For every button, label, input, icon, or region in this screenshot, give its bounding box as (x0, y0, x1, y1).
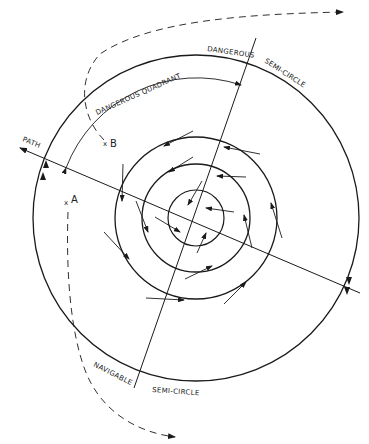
ship-track-a (68, 212, 175, 437)
label-navigable: NAVIGABLE (92, 361, 133, 387)
isobar-inner (168, 190, 224, 246)
storm-diagram: DANGEROUS SEMI-CIRCLE DANGEROUS QUADRANT… (0, 0, 369, 444)
outer-circle-arrow-left-2 (40, 172, 46, 180)
outer-storm-circle (33, 55, 359, 381)
isobar-outer (115, 137, 277, 299)
outer-circle-arrow-right-2 (344, 287, 350, 295)
mark-x-b: x (103, 140, 107, 148)
label-semicircle-bottom: SEMI-CIRCLE (152, 386, 200, 397)
label-point-b: B (110, 138, 117, 149)
label-point-a: A (71, 194, 78, 205)
ship-track-b (85, 12, 343, 140)
mark-x-a: x (64, 199, 68, 207)
label-dangerous: DANGEROUS (207, 45, 256, 60)
label-path: PATH (21, 135, 41, 149)
label-dangerous-quadrant: DANGEROUS QUADRANT (95, 72, 183, 117)
isobar-middle (142, 164, 250, 272)
